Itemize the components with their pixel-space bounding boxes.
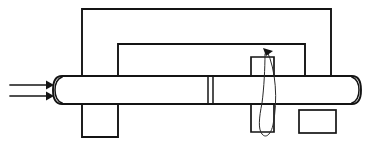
diagram-canvas	[0, 0, 375, 146]
right-detached-block	[299, 110, 336, 133]
diagram-root	[0, 0, 375, 146]
horizontal-bar	[53, 76, 361, 104]
